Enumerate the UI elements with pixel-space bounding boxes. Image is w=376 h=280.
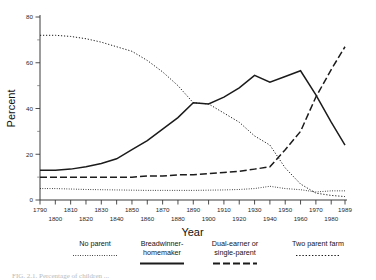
legend-swatch-two-parent-farm — [294, 253, 342, 258]
legend-swatch-dual-earner-single-parent — [211, 261, 259, 266]
x-tick-label-top: 1790 — [33, 206, 47, 213]
y-tick-label: 40 — [26, 105, 33, 112]
x-tick-label-top: 1830 — [94, 206, 108, 213]
series-line-dual-earner-or-single-parent — [40, 47, 345, 177]
x-tick-label-top: 1950 — [278, 206, 292, 213]
x-tick-label-bottom: 1980 — [324, 215, 338, 222]
legend-item-no-parent: No parent — [64, 240, 126, 258]
legend-item-breadwinner-homemaker: Breadwinner- homemaker — [126, 240, 198, 266]
y-tick-label: 0 — [30, 196, 34, 203]
x-tick-label-bottom: 1820 — [79, 215, 93, 222]
x-tick-label-bottom: 1940 — [263, 215, 277, 222]
legend-label-no-parent: No parent — [79, 240, 111, 249]
x-axis-title: Year — [181, 226, 204, 238]
x-tick-label-bottom: 1960 — [294, 215, 308, 222]
x-tick-label-top: 1850 — [125, 206, 139, 213]
legend-item-dual-earner-single-parent: Dual-earner or single-parent — [198, 240, 272, 266]
x-tick-label-top: 1970 — [309, 206, 323, 213]
y-tick-label: 20 — [26, 151, 33, 158]
x-tick-label-top: 1810 — [64, 206, 78, 213]
figure-caption: FIG. 2.1. Percentage of children ... — [12, 272, 372, 280]
x-tick-label-top: 1930 — [248, 206, 262, 213]
x-tick-label-top: 1870 — [156, 206, 170, 213]
series-line-breadwinner-homemaker — [40, 71, 345, 170]
x-tick-label-bottom: 1920 — [232, 215, 246, 222]
chart-legend: No parent Breadwinner- homemaker Dual-ea… — [64, 240, 370, 266]
x-tick-label-bottom: 1880 — [171, 215, 185, 222]
series-line-no-parent — [40, 186, 345, 192]
y-tick-label: 80 — [26, 13, 33, 20]
x-tick-label-top: 1910 — [217, 206, 231, 213]
y-tick-label: 60 — [26, 59, 33, 66]
x-tick-label-bottom: 1900 — [202, 215, 216, 222]
legend-swatch-no-parent — [71, 253, 119, 258]
legend-label-breadwinner-homemaker: Breadwinner- homemaker — [141, 240, 184, 257]
series-line-two-parent-farm — [40, 35, 345, 196]
x-tick-label-bottom: 1800 — [48, 215, 62, 222]
x-tick-label-top: 1890 — [186, 206, 200, 213]
legend-swatch-breadwinner-homemaker — [138, 261, 186, 266]
legend-label-two-parent-farm: Two parent farm — [292, 240, 344, 249]
legend-label-dual-earner-single-parent: Dual-earner or single-parent — [212, 240, 258, 257]
x-tick-label-bottom: 1840 — [110, 215, 124, 222]
legend-item-two-parent-farm: Two parent farm — [272, 240, 364, 258]
x-tick-label-top: 1989 — [338, 206, 352, 213]
y-axis-title: Percent — [5, 90, 17, 128]
x-tick-label-bottom: 1860 — [140, 215, 154, 222]
